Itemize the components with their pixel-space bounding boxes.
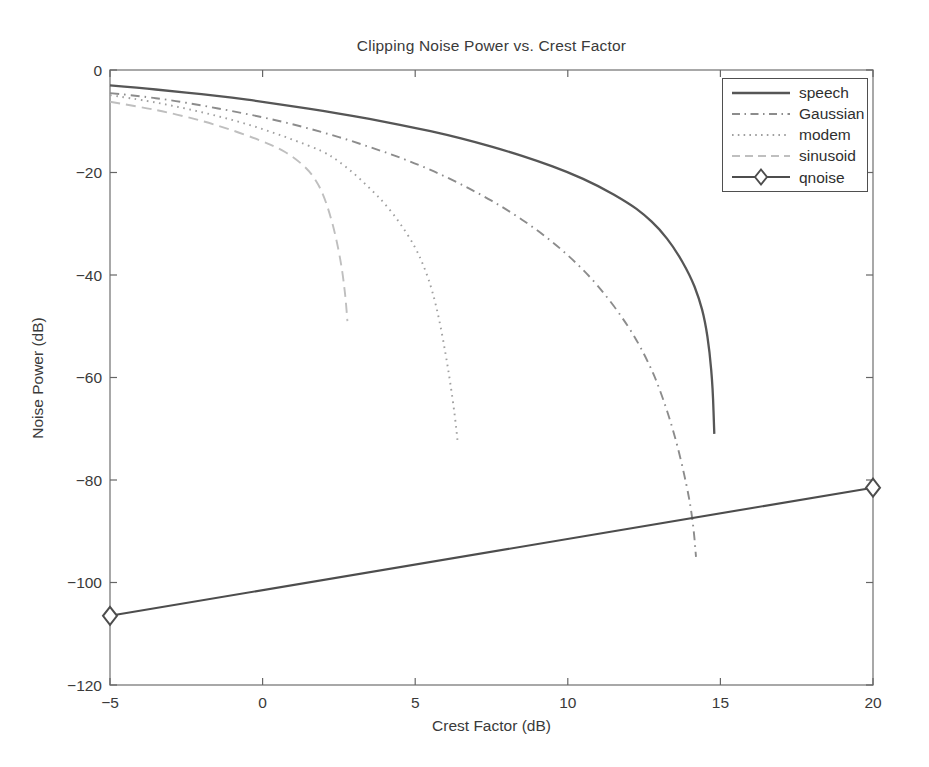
legend-item-qnoise: qnoise: [731, 167, 867, 188]
diamond-marker: [755, 170, 767, 185]
legend-item-speech: speech: [731, 82, 867, 103]
legend-label: sinusoid: [799, 148, 856, 164]
y-tick-label: −120: [67, 677, 102, 694]
legend-item-modem: modem: [731, 124, 867, 145]
x-axis-label: Crest Factor (dB): [110, 717, 873, 735]
legend-label: qnoise: [799, 170, 845, 186]
series-modem-curve: [110, 95, 458, 444]
series-qnoise-curve: [110, 488, 873, 616]
legend-sample-solid-line: [731, 85, 791, 101]
series-sinusoid-curve: [110, 102, 347, 321]
series-Gaussian-curve: [110, 93, 696, 557]
x-tick-label: −5: [101, 694, 119, 711]
legend: speechGaussianmodemsinusoidqnoise: [722, 78, 868, 192]
legend-sample-dotted-line: [731, 127, 791, 143]
series-speech-curve: [110, 85, 714, 434]
y-tick-label: −20: [76, 164, 103, 181]
legend-sample-dashed-line: [731, 148, 791, 164]
x-tick-label: 5: [411, 694, 420, 711]
y-tick-label: 0: [93, 62, 102, 79]
legend-label: modem: [799, 127, 851, 143]
y-tick-label: −80: [76, 472, 103, 489]
legend-label: speech: [799, 85, 849, 101]
legend-sample-solid-line: [731, 169, 791, 185]
x-tick-label: 0: [258, 694, 267, 711]
y-axis-label: Noise Power (dB): [29, 317, 47, 438]
x-tick-label: 20: [864, 694, 882, 711]
y-tick-label: −100: [67, 574, 102, 591]
diamond-marker: [103, 607, 117, 625]
legend-item-Gaussian: Gaussian: [731, 103, 867, 124]
legend-label: Gaussian: [799, 106, 864, 122]
x-tick-label: 10: [559, 694, 577, 711]
chart-title: Clipping Noise Power vs. Crest Factor: [110, 37, 873, 55]
x-tick-label: 15: [712, 694, 729, 711]
diamond-marker: [866, 479, 880, 497]
y-tick-label: −40: [76, 267, 103, 284]
legend-item-sinusoid: sinusoid: [731, 146, 867, 167]
legend-sample-dash-dot-line: [731, 106, 791, 122]
y-tick-label: −60: [76, 369, 103, 386]
